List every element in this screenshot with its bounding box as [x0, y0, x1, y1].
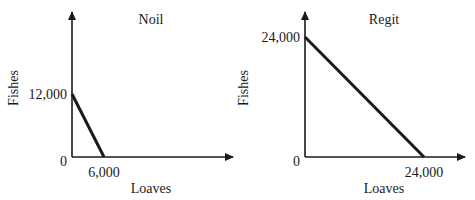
y-axis-label: Fishes	[236, 70, 251, 106]
chart-regit: Regit 24,000 0 24,000 Loaves Fishes	[236, 12, 465, 196]
y-tick-label: 24,000	[262, 30, 301, 45]
origin-label: 0	[293, 154, 300, 169]
ppf-charts: Noil 12,000 0 6,000 Loaves Fishes Regit …	[0, 0, 475, 200]
chart-noil: Noil 12,000 0 6,000 Loaves Fishes	[6, 12, 233, 196]
x-tick-label: 24,000	[405, 165, 444, 180]
chart-title: Noil	[139, 12, 164, 27]
ppf-line	[72, 94, 104, 157]
x-axis-label: Loaves	[131, 181, 171, 196]
ppf-line	[305, 37, 424, 157]
y-tick-label: 12,000	[29, 87, 68, 102]
origin-label: 0	[60, 154, 67, 169]
y-axis-label: Fishes	[6, 70, 21, 106]
x-axis-label: Loaves	[364, 181, 404, 196]
chart-title: Regit	[369, 12, 399, 27]
x-tick-label: 6,000	[88, 165, 120, 180]
